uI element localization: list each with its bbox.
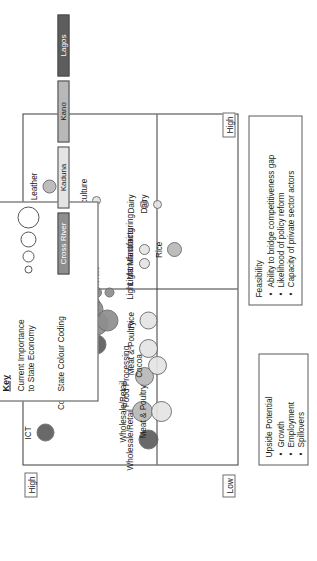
bubble-label: Light Manufacturing [127, 213, 135, 285]
upside-potential-title: Upside Potential [264, 361, 272, 457]
bubble [151, 401, 172, 422]
bubble-label: Meat & Poultry [128, 321, 136, 375]
x-axis-low-marker: Low [222, 474, 235, 497]
bubble [139, 311, 157, 329]
bubble [152, 199, 161, 208]
feasibility-bullet-competitiveness: Ability to bridge competitiveness gap [266, 123, 276, 287]
upside-potential-bullets: Growth Employment Spillovers [276, 361, 306, 457]
upside-potential-box: Upside Potential Growth Employment Spill… [258, 353, 308, 465]
bubble [138, 258, 149, 269]
bubble-label: Leather [31, 172, 39, 200]
size-legend-label: Current Importance to State Economy [15, 283, 35, 391]
prioritisation-matrix-figure: ICTConstructionLight ManufacturingOil Pa… [0, 0, 317, 561]
bubble-label: Dairy [141, 194, 149, 213]
feasibility-bullets: Ability to bridge competitiveness gap Li… [266, 123, 296, 297]
size-legend-circle-1 [22, 250, 34, 262]
size-legend-circle-3 [17, 206, 39, 228]
bubble [36, 423, 54, 441]
bubble [104, 287, 114, 297]
bubble-label: ICT [24, 426, 32, 439]
bubble-label: Dairy [128, 194, 136, 213]
bubble-label: Rice [156, 241, 164, 257]
bubble-label: Meat & Poultry [140, 384, 148, 438]
state-swatch-kaduna: Kaduna [57, 146, 69, 208]
size-legend-circle-0 [24, 265, 32, 273]
bubble-label: Cocoa [136, 354, 144, 378]
upside-bullet-growth: Growth [276, 361, 286, 447]
feasibility-bullet-private-sector: Capacity of private sector actors [286, 123, 296, 287]
state-swatch-lagos: Lagos [57, 14, 69, 76]
bubble [167, 242, 182, 257]
bubble [138, 244, 149, 255]
bubble [139, 338, 158, 357]
y-axis-high-marker: High [24, 472, 37, 497]
size-legend-circle-2 [20, 231, 36, 247]
bubble [42, 179, 56, 193]
feasibility-title: Feasibility [254, 123, 262, 297]
bubble-label: Rice [128, 311, 136, 327]
upside-bullet-employment: Employment [286, 361, 296, 447]
key-box: Key Current Importance to State Economy … [0, 201, 98, 401]
state-swatch-kano: Kano [57, 80, 69, 142]
key-title: Key [0, 374, 10, 391]
bubble [147, 356, 166, 375]
upside-bullet-spillovers: Spillovers [296, 361, 306, 447]
feasibility-box: Feasibility Ability to bridge competitiv… [248, 115, 302, 305]
colour-legend-label: State Colour Coding [55, 281, 65, 391]
x-axis-high-marker: High [222, 112, 235, 137]
feasibility-bullet-policy-reform: Likelihood of policy reform [276, 123, 286, 287]
state-swatch-cross-river: Cross River [57, 212, 69, 274]
